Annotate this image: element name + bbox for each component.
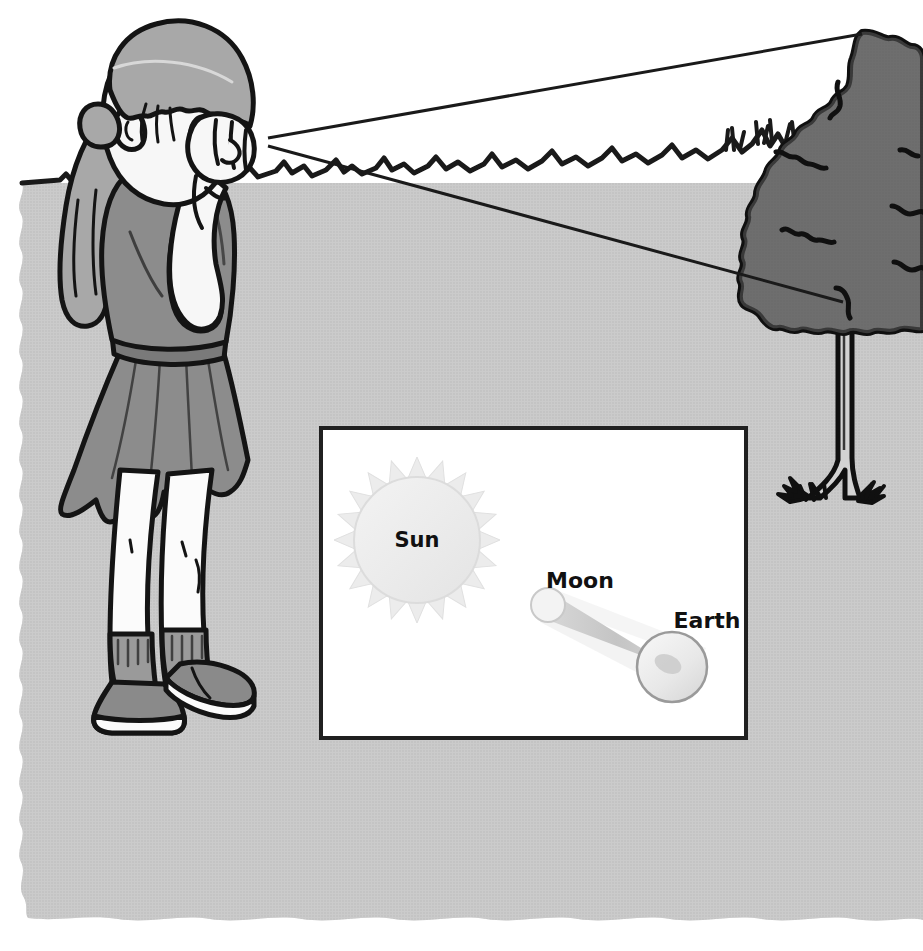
eclipse-inset-diagram[interactable]: Sun Moon Earth (0, 0, 923, 951)
earth-label: Earth (674, 608, 741, 633)
illustration-canvas: Sun Moon Earth Sun Moon Earth (0, 0, 923, 951)
sun-label: Sun (394, 528, 439, 552)
moon-label: Moon (546, 568, 614, 593)
moon-disc (531, 588, 565, 622)
